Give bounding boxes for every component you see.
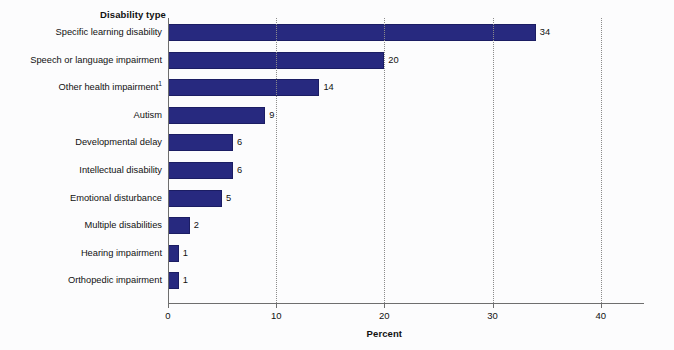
bar — [168, 107, 265, 124]
bar-category-label: Developmental delay — [75, 136, 162, 148]
bar-category-label: Hearing impairment — [81, 247, 162, 259]
bar-value-label: 6 — [237, 136, 242, 148]
bar — [168, 162, 233, 179]
bar-category-label: Orthopedic impairment — [68, 274, 162, 286]
x-axis-tick — [493, 303, 494, 308]
bar — [168, 272, 179, 289]
x-axis-tick — [601, 303, 602, 308]
bar-rows: Specific learning disability34Speech or … — [0, 23, 674, 299]
x-axis-tick — [384, 303, 385, 308]
bar-category-label: Multiple disabilities — [84, 219, 162, 231]
bar — [168, 134, 233, 151]
bar-row: Autism9 — [0, 106, 674, 134]
bar-row: Speech or language impairment20 — [0, 51, 674, 79]
x-axis-title: Percent — [367, 328, 403, 339]
x-axis-tick-label: 0 — [165, 310, 170, 321]
bar-value-label: 2 — [194, 219, 199, 231]
x-axis-tick-label: 20 — [379, 310, 390, 321]
x-axis-tick-label: 10 — [271, 310, 282, 321]
bar-category-label: Emotional disturbance — [70, 192, 162, 204]
bar-category-label: Autism — [134, 109, 162, 121]
footnote-marker: 1 — [158, 80, 162, 87]
bar — [168, 24, 536, 41]
bar-row: Intellectual disability6 — [0, 161, 674, 189]
bar-value-label: 5 — [226, 192, 231, 204]
bar-row: Developmental delay6 — [0, 133, 674, 161]
bar-category-label: Other health impairment1 — [59, 81, 162, 93]
bar-value-label: 6 — [237, 164, 242, 176]
category-axis-header: Disability type — [0, 9, 166, 20]
x-axis-tick — [168, 303, 169, 308]
bar — [168, 79, 319, 96]
bar-row: Orthopedic impairment1 — [0, 271, 674, 299]
x-axis-tick-label: 30 — [487, 310, 498, 321]
bar-value-label: 34 — [540, 26, 550, 38]
value-axis-spine — [168, 18, 169, 303]
bar-row: Emotional disturbance5 — [0, 189, 674, 217]
bar-value-label: 1 — [183, 247, 188, 259]
chart-page: Disability type Specific learning disabi… — [0, 0, 674, 350]
bar-category-label: Specific learning disability — [56, 26, 162, 38]
bar-value-label: 1 — [183, 274, 188, 286]
x-axis-tick — [276, 303, 277, 308]
bar-value-label: 20 — [388, 54, 398, 66]
bar — [168, 217, 190, 234]
bar-row: Multiple disabilities2 — [0, 216, 674, 244]
bar-chart: Disability type Specific learning disabi… — [0, 0, 674, 350]
bar-value-label: 14 — [323, 81, 333, 93]
x-axis-tick-label: 40 — [595, 310, 606, 321]
bar — [168, 245, 179, 262]
bar-row: Specific learning disability34 — [0, 23, 674, 51]
bar — [168, 190, 222, 207]
gridline — [493, 18, 494, 303]
x-axis-line — [168, 303, 644, 304]
bar-category-label: Speech or language impairment — [30, 54, 162, 66]
gridline — [276, 18, 277, 303]
gridline — [601, 18, 602, 303]
bar-row: Other health impairment114 — [0, 78, 674, 106]
gridline — [384, 18, 385, 303]
bar-category-label: Intellectual disability — [79, 164, 162, 176]
bar-value-label: 9 — [269, 109, 274, 121]
bar-row: Hearing impairment1 — [0, 244, 674, 272]
